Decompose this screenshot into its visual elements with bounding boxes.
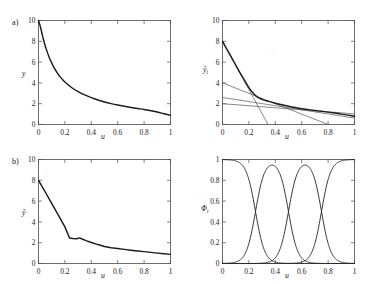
x-tick-label: 0.4 [271,267,281,276]
y-tick-label: 0 [32,259,36,268]
y-tick-label: 8 [32,176,36,185]
x-tick-label: 0.8 [323,267,333,276]
y-tick-label: 0 [32,120,36,129]
x-tick-label: 1 [353,128,357,137]
panel-b-left-tick-labels: 00.20.40.60.810246810 [28,155,173,276]
x-tick-label: 1 [353,267,357,276]
panel-b-left-x-label: u [101,271,105,280]
y-tick-label: 6 [32,197,36,206]
y-tick-label: 2 [216,99,220,108]
x-tick-label: 0.2 [244,128,254,137]
panel-a-left-x-label: u [101,132,105,141]
y-tick-label: 6 [32,58,36,67]
x-tick-label: 0.4 [87,267,97,276]
panel-b-right-y-label: Φi [201,204,209,214]
x-tick-label: 0.6 [297,267,307,276]
panel-a-left-ticks [39,21,171,125]
panel-a-right-x-label: u [285,132,289,141]
x-tick-label: 0.8 [323,128,333,137]
panel-b-left-y-label: ŷ [21,208,26,217]
x-tick-label: 0 [37,267,41,276]
x-tick-label: 0.4 [271,128,281,137]
panel-b-right-x-label: u [285,271,289,280]
x-tick-label: 0.2 [60,267,70,276]
panel-b-left: b) 00.20.40.60.810246810 ŷ u [12,155,173,280]
x-tick-label: 0.4 [87,128,97,137]
x-tick-label: 0 [221,128,225,137]
x-tick-label: 0.6 [113,128,123,137]
panel-a-left-y-label: y [21,69,26,78]
x-tick-label: 0.6 [297,128,307,137]
multi-panel-figure: a) 00.20.40.60.810246810 y u 00.20.40.60… [0,0,378,284]
y-tick-label: 4 [32,79,36,88]
y-tick-label: 0.2 [210,238,220,247]
x-tick-label: 0 [37,128,41,137]
local-model-lines [223,41,355,124]
panel-b-left-frame [39,160,171,264]
y-tick-label: 0.4 [210,218,220,227]
y-tick-label: 2 [32,238,36,247]
y-tick-label: 4 [32,218,36,227]
system-response-curve [39,21,171,116]
local-model-line-3 [223,97,355,118]
y-tick-label: 10 [212,16,220,25]
panel-a-left: a) 00.20.40.60.810246810 y u [12,16,173,141]
panel-a-left-frame [39,21,171,125]
panel-a-right: 00.20.40.60.810246810 ŷi u [202,16,357,141]
x-tick-label: 0 [221,267,225,276]
membership-function-3 [223,165,355,263]
y-tick-label: 0.8 [210,176,220,185]
panel-a-right-tick-labels: 00.20.40.60.810246810 [212,16,357,137]
y-tick-label: 8 [216,37,220,46]
x-tick-label: 0.2 [244,267,254,276]
y-tick-label: 1 [216,155,220,164]
x-tick-label: 0.8 [139,267,149,276]
y-tick-label: 10 [28,155,36,164]
y-tick-label: 0 [216,259,220,268]
y-tick-label: 0 [216,120,220,129]
membership-function-curves [223,160,355,264]
x-tick-label: 0.2 [60,128,70,137]
panel-b-label: b) [12,157,19,166]
figure-container: a) 00.20.40.60.810246810 y u 00.20.40.60… [0,0,378,284]
x-tick-label: 1 [169,128,173,137]
panel-b-left-ticks [39,160,171,264]
x-tick-label: 0.8 [139,128,149,137]
x-tick-label: 0.6 [113,267,123,276]
x-tick-label: 1 [169,267,173,276]
y-tick-label: 4 [216,79,220,88]
membership-function-2 [223,165,355,263]
panel-a-right-y-label: ŷi [202,65,208,75]
panel-b-right: 00.20.40.60.8100.20.40.60.81 Φi u [201,155,357,280]
y-tick-label: 10 [28,16,36,25]
panel-a-left-tick-labels: 00.20.40.60.810246810 [28,16,173,137]
panel-a-label: a) [12,18,19,27]
y-tick-label: 6 [216,58,220,67]
piecewise-approximation-curve [39,180,171,254]
y-tick-label: 8 [32,37,36,46]
y-tick-label: 2 [32,99,36,108]
y-tick-label: 0.6 [210,197,220,206]
